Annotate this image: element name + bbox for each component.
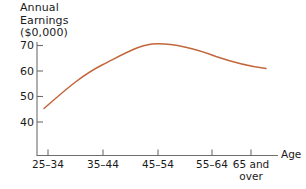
axes-group <box>37 42 279 156</box>
earnings-curve <box>44 44 266 109</box>
y-tick-label-40: 40 <box>8 116 34 129</box>
x-tick-label-65-over: 65 and over <box>224 158 278 182</box>
x-tick-label-25-34: 25–34 <box>18 158 78 170</box>
x-tick-label-45-54: 45–54 <box>128 158 188 170</box>
earnings-age-chart: Annual Earnings ($0,000) 70 60 50 40 25–… <box>0 0 306 189</box>
x-axis-title: Age <box>281 148 301 160</box>
y-tick-label-70: 70 <box>8 39 34 52</box>
y-tick-label-60: 60 <box>8 65 34 78</box>
y-tick-label-50: 50 <box>8 90 34 103</box>
x-tick-label-35-44: 35–44 <box>73 158 133 170</box>
